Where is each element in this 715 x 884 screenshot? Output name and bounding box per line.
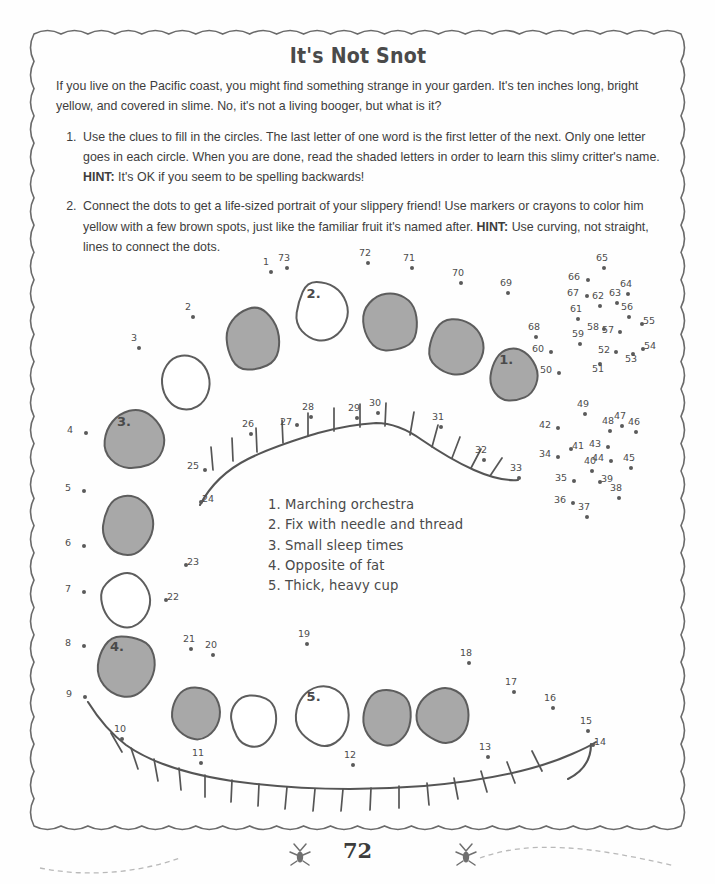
puzzle-circle-shaded[interactable] xyxy=(416,688,468,743)
puzzle-circle-shaded[interactable] xyxy=(172,688,220,740)
back-hatch-marks xyxy=(211,403,502,476)
puzzle-circle-shaded[interactable] xyxy=(490,348,537,400)
puzzle-circle-empty[interactable] xyxy=(296,686,349,746)
clue-item-1: 1. Marching orchestra xyxy=(268,495,463,515)
slug-back-line xyxy=(200,423,518,505)
clue-list: 1. Marching orchestra2. Fix with needle … xyxy=(268,495,463,597)
page-number: 72 xyxy=(0,838,715,863)
puzzle-circle-empty[interactable] xyxy=(231,695,276,746)
puzzle-circle-shaded[interactable] xyxy=(227,308,280,370)
page-footer: 72 xyxy=(0,830,715,884)
clue-item-3: 3. Small sleep times xyxy=(268,536,463,556)
puzzle-circle-shaded[interactable] xyxy=(103,496,153,555)
puzzle-circle-shaded[interactable] xyxy=(429,319,483,374)
puzzle-circle-empty[interactable] xyxy=(101,573,150,628)
clue-item-5: 5. Thick, heavy cup xyxy=(268,576,463,596)
puzzle-circle-shaded[interactable] xyxy=(363,294,417,351)
worksheet-page: It's Not Snot If you live on the Pacific… xyxy=(0,0,715,884)
puzzle-circle-shaded[interactable] xyxy=(98,636,155,696)
puzzle-circle-shaded[interactable] xyxy=(363,690,410,746)
puzzle-circle-empty[interactable] xyxy=(162,356,210,410)
puzzle-circle-shaded[interactable] xyxy=(105,410,165,468)
slug-tail-line xyxy=(568,744,591,779)
clue-item-2: 2. Fix with needle and thread xyxy=(268,515,463,535)
clue-item-4: 4. Opposite of fat xyxy=(268,556,463,576)
puzzle-circle-empty[interactable] xyxy=(296,282,347,341)
slug-dot-to-dot-artwork xyxy=(0,0,715,884)
